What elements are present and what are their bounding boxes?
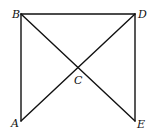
point-label-E: E: [136, 118, 145, 131]
geometry-diagram: BDAEC: [0, 0, 154, 134]
point-label-C: C: [74, 74, 83, 87]
point-label-A: A: [10, 117, 19, 130]
segments: [21, 14, 135, 121]
point-label-B: B: [11, 8, 20, 21]
point-label-D: D: [137, 8, 147, 21]
